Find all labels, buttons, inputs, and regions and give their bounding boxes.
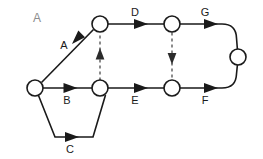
panel-label-a: A [33,11,41,25]
edge-label-f: F [202,94,209,106]
edge-label-d: D [131,6,139,18]
edge-group-f [180,65,237,93]
edge-dummy-right-arrowhead [168,53,177,65]
edge-a-arrowhead [72,30,85,44]
edge-label-g: G [201,6,210,18]
edge-label-b: B [63,94,70,106]
edge-g-line [180,24,237,49]
edge-group-d [108,19,164,29]
network-diagram-canvas: A A B C D E F G [0,0,263,159]
node-n3[interactable] [92,80,108,96]
edge-group-g [180,19,237,49]
network-diagram-figure: A A B C D E F G [0,0,263,159]
node-n6[interactable] [230,49,246,65]
edge-group-c [39,95,106,142]
edge-group-b [43,83,92,93]
edge-c-line [39,95,106,137]
edge-group-e [108,83,164,93]
edge-b-arrowhead [64,83,78,93]
edge-a-line [42,30,94,83]
node-n2[interactable] [92,16,108,32]
edge-group-a [42,30,94,83]
edge-label-e: E [131,94,138,106]
edge-e-arrowhead [134,83,148,93]
edge-dummy-left-arrowhead [96,48,105,60]
edge-label-a: A [60,39,68,51]
edge-g-arrowhead [204,19,218,29]
edge-f-arrowhead [204,83,218,93]
node-n4[interactable] [164,16,180,32]
edge-f-line [180,65,237,88]
edge-label-c: C [66,143,74,155]
edge-c-arrowhead [65,132,79,142]
node-n5[interactable] [164,80,180,96]
node-n1[interactable] [27,80,43,96]
edge-group-dummy-right [168,33,177,81]
edge-d-arrowhead [134,19,148,29]
edge-group-dummy-left [96,33,105,81]
